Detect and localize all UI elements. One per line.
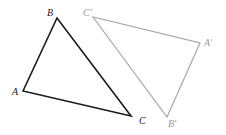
vertex-label-b: B <box>47 7 53 18</box>
triangle-abc <box>23 18 131 116</box>
vertex-label-b-prime: B′ <box>168 118 177 129</box>
vertex-label-c: C <box>139 115 146 126</box>
triangle-diagram: A B C A′ B′ C′ <box>0 0 226 135</box>
triangle-a-prime-b-prime-c-prime <box>93 17 200 117</box>
vertex-label-c-prime: C′ <box>83 7 93 18</box>
vertex-label-a-prime: A′ <box>203 37 213 48</box>
vertex-label-a: A <box>11 86 19 97</box>
